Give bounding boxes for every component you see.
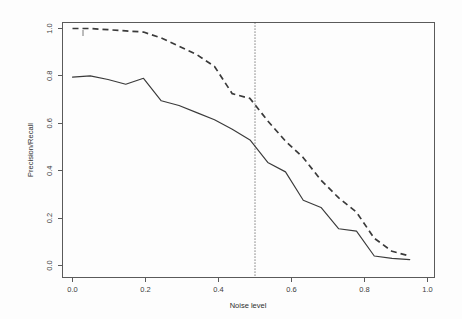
x-axis-title: Noise level: [230, 301, 267, 310]
y-tick-label: 0.6: [45, 118, 54, 128]
y-tick-label: 0.0: [45, 260, 54, 270]
y-tick-label: 0.8: [45, 71, 54, 81]
x-axis-tick-labels: 0.0 0.2 0.4 0.6 0.8 1.0: [67, 285, 432, 294]
x-tick-label: 0.8: [359, 285, 369, 294]
plot-frame: [63, 23, 435, 278]
y-tick-label: 1.0: [45, 23, 54, 33]
x-tick-label: 0.2: [140, 285, 150, 294]
y-axis-tick-labels: 0.0 0.2 0.4 0.6 0.8 1.0: [45, 23, 54, 270]
series-precision-solid: [73, 76, 410, 260]
series-recall-dashed: [73, 29, 410, 257]
x-tick-label: 0.4: [213, 285, 223, 294]
y-axis-title: Precision/Recall: [26, 123, 35, 177]
precision-recall-plot: 0.0 0.2 0.4 0.6 0.8 1.0 0.0 0.2 0.4 0.6 …: [0, 0, 462, 319]
x-axis-ticks: [73, 277, 428, 282]
y-tick-label: 0.2: [45, 213, 54, 223]
x-tick-label: 1.0: [422, 285, 432, 294]
y-tick-label: 0.4: [45, 165, 54, 175]
y-axis-ticks: [58, 29, 63, 266]
chart-figure: 0.0 0.2 0.4 0.6 0.8 1.0 0.0 0.2 0.4 0.6 …: [0, 0, 462, 319]
x-tick-label: 0.6: [286, 285, 296, 294]
x-tick-label: 0.0: [67, 285, 77, 294]
